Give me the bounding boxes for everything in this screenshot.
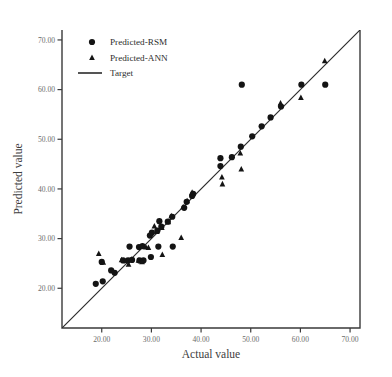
x-tick-label: 50.00 [242,335,259,344]
data-point [156,218,162,224]
data-point [152,223,158,229]
data-point [298,94,304,100]
data-point [239,82,245,88]
legend-circle-icon [89,39,95,45]
y-tick-label: 70.00 [38,36,55,45]
data-point [217,163,223,169]
legend-label: Predicted-RSM [110,37,167,47]
x-tick-label: 20.00 [93,335,110,344]
legend-label: Predicted-ANN [110,53,168,63]
data-point [178,235,184,241]
series-rsm [93,82,329,287]
x-tick-label: 40.00 [193,335,210,344]
data-point [278,100,284,106]
series-ann [96,58,328,267]
y-tick-label: 40.00 [38,185,55,194]
y-tick-label: 50.00 [38,135,55,144]
data-point [238,166,244,172]
chart-canvas: 20.0030.0040.0050.0060.0070.0020.0030.00… [0,0,392,377]
target-reference-line [62,30,360,328]
y-tick-label: 20.00 [38,284,55,293]
legend: Predicted-RSMPredicted-ANNTarget [78,37,168,78]
data-point [217,155,223,161]
data-point [219,174,225,180]
x-tick-label: 70.00 [342,335,359,344]
y-tick-label: 60.00 [38,85,55,94]
data-point [322,82,328,88]
legend-label: Target [110,68,134,78]
data-point [249,133,255,139]
data-point [229,154,235,160]
data-point [159,251,165,257]
data-point [259,123,265,129]
data-point [148,254,154,260]
data-point [112,270,118,276]
data-point [298,82,304,88]
x-tick-label: 60.00 [292,335,309,344]
data-point [93,281,99,287]
data-point [220,181,226,187]
y-axis-title: Predicted value [12,143,24,214]
y-tick-label: 30.00 [38,234,55,243]
x-tick-label: 30.00 [143,335,160,344]
data-point [149,230,155,236]
data-point [100,278,106,284]
x-axis-title: Actual value [182,348,240,360]
data-point [322,58,328,64]
data-point [268,114,274,120]
data-point [96,250,102,256]
data-point [155,243,161,249]
x-axis-ticks: 20.0030.0040.0050.0060.0070.00 [93,328,359,344]
data-point [238,144,244,150]
data-point [170,243,176,249]
data-point [126,243,132,249]
data-points-group [93,58,329,287]
legend-triangle-icon [89,54,95,60]
y-axis-ticks: 20.0030.0040.0050.0060.0070.00 [38,36,62,293]
scatter-plot-figure: 20.0030.0040.0050.0060.0070.0020.0030.00… [0,0,392,377]
